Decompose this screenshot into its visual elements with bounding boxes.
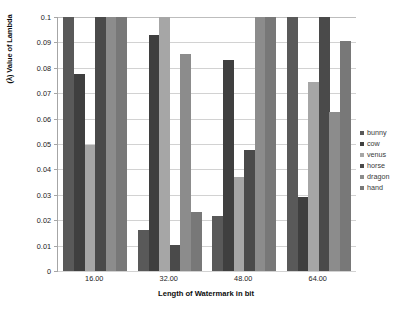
legend-item-bunny[interactable]: bunny bbox=[360, 127, 405, 138]
legend-item-venus[interactable]: venus bbox=[360, 149, 405, 160]
bar-venus-48-00[interactable] bbox=[234, 177, 245, 271]
legend-item-horse[interactable]: horse bbox=[360, 160, 405, 171]
y-axis-tick-labels: 00.010.020.030.040.050.060.070.080.090.1 bbox=[20, 17, 54, 271]
x-tick-label: 64.00 bbox=[309, 274, 327, 283]
x-tick-label: 32.00 bbox=[160, 274, 178, 283]
y-tick-label: 0 bbox=[47, 267, 51, 276]
legend-label: horse bbox=[367, 162, 385, 169]
x-axis-title: Length of Watermark in bit bbox=[57, 289, 355, 298]
bar-hand-32-00[interactable] bbox=[191, 212, 202, 271]
bar-chart: (λ) Value of Lambda 00.010.020.030.040.0… bbox=[0, 0, 405, 319]
legend-item-dragon[interactable]: dragon bbox=[360, 171, 405, 182]
y-tick-label: 0.04 bbox=[37, 165, 51, 174]
bar-dragon-16-00[interactable] bbox=[106, 17, 117, 271]
legend-swatch-icon bbox=[360, 131, 364, 135]
bar-horse-64-00[interactable] bbox=[319, 17, 330, 271]
bar-bunny-48-00[interactable] bbox=[212, 216, 223, 271]
y-tick-label: 0.01 bbox=[37, 241, 51, 250]
bars-layer bbox=[58, 17, 356, 271]
bar-hand-48-00[interactable] bbox=[265, 17, 276, 271]
y-tick-label: 0.02 bbox=[37, 216, 51, 225]
bar-group bbox=[287, 17, 351, 271]
bar-horse-32-00[interactable] bbox=[170, 245, 181, 271]
bar-venus-64-00[interactable] bbox=[308, 82, 319, 271]
y-tick-label: 0.08 bbox=[37, 63, 51, 72]
x-tick-label: 16.00 bbox=[85, 274, 103, 283]
bar-group bbox=[212, 17, 276, 271]
bar-venus-16-00[interactable] bbox=[85, 145, 96, 271]
bar-group bbox=[138, 17, 202, 271]
y-tick-label: 0.06 bbox=[37, 114, 51, 123]
bar-cow-48-00[interactable] bbox=[223, 60, 234, 271]
bar-horse-16-00[interactable] bbox=[95, 17, 106, 271]
y-tick-label: 0.07 bbox=[37, 89, 51, 98]
bar-bunny-64-00[interactable] bbox=[287, 17, 298, 271]
bar-cow-32-00[interactable] bbox=[149, 35, 160, 271]
legend-swatch-icon bbox=[360, 153, 364, 157]
y-tick-label: 0.09 bbox=[37, 38, 51, 47]
legend-item-hand[interactable]: hand bbox=[360, 182, 405, 193]
bar-group bbox=[63, 17, 127, 271]
chart-legend: bunnycowvenushorsedragonhand bbox=[360, 127, 405, 193]
legend-label: bunny bbox=[367, 129, 387, 136]
legend-swatch-icon bbox=[360, 164, 364, 168]
legend-item-cow[interactable]: cow bbox=[360, 138, 405, 149]
legend-label: cow bbox=[367, 140, 380, 147]
bar-horse-48-00[interactable] bbox=[244, 150, 255, 271]
bar-cow-64-00[interactable] bbox=[298, 197, 309, 271]
y-tick-label: 0.05 bbox=[37, 140, 51, 149]
gridline bbox=[58, 271, 356, 272]
legend-swatch-icon bbox=[360, 142, 364, 146]
bar-bunny-32-00[interactable] bbox=[138, 230, 149, 271]
legend-label: hand bbox=[367, 184, 383, 191]
bar-bunny-16-00[interactable] bbox=[63, 17, 74, 271]
legend-swatch-icon bbox=[360, 175, 364, 179]
y-axis-title: (λ) Value of Lambda bbox=[5, 0, 14, 114]
legend-label: venus bbox=[367, 151, 386, 158]
bar-hand-16-00[interactable] bbox=[116, 17, 127, 271]
bar-dragon-48-00[interactable] bbox=[255, 17, 266, 271]
x-axis-tick-labels: 16.0032.0048.0064.00 bbox=[57, 274, 355, 286]
bar-venus-32-00[interactable] bbox=[159, 17, 170, 271]
x-tick-label: 48.00 bbox=[234, 274, 252, 283]
plot-area bbox=[57, 17, 356, 272]
bar-dragon-64-00[interactable] bbox=[329, 112, 340, 271]
y-tick-mark bbox=[54, 271, 58, 272]
y-tick-label: 0.1 bbox=[41, 13, 51, 22]
legend-label: dragon bbox=[367, 173, 389, 180]
bar-hand-64-00[interactable] bbox=[340, 41, 351, 271]
bar-cow-16-00[interactable] bbox=[74, 74, 85, 271]
bar-dragon-32-00[interactable] bbox=[180, 54, 191, 271]
y-tick-label: 0.03 bbox=[37, 190, 51, 199]
legend-swatch-icon bbox=[360, 186, 364, 190]
